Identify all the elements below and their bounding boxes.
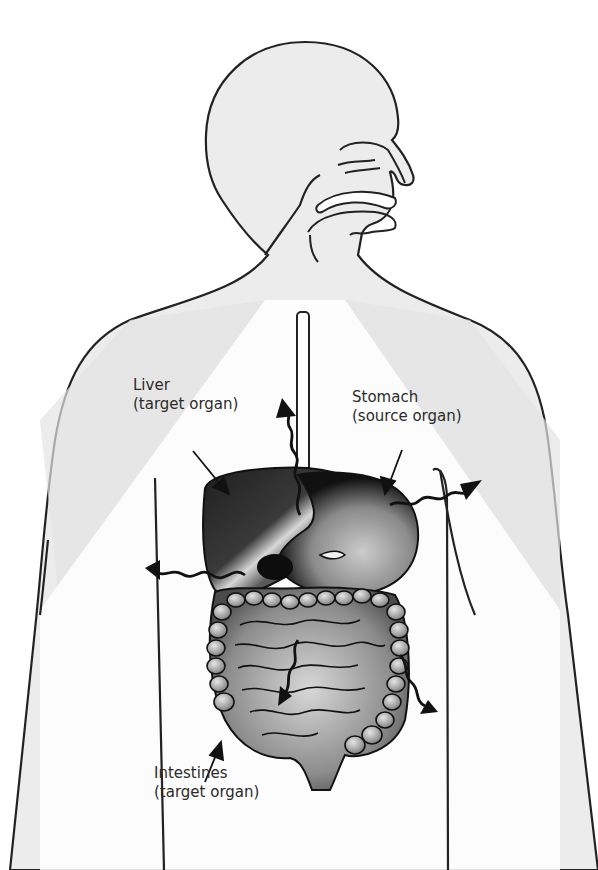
pancreas-dark <box>257 554 293 580</box>
anatomy-diagram <box>0 0 598 870</box>
intestines-label: Intestines (target organ) <box>154 764 259 802</box>
liver-label: Liver (target organ) <box>133 376 238 414</box>
esophagus <box>297 312 309 472</box>
liver-label-name: Liver <box>133 376 238 395</box>
intestines-label-role: (target organ) <box>154 783 259 802</box>
stomach-label: Stomach (source organ) <box>352 388 462 426</box>
stomach-label-name: Stomach <box>352 388 462 407</box>
liver-label-role: (target organ) <box>133 395 238 414</box>
stomach-label-role: (source organ) <box>352 407 462 426</box>
intestines-label-name: Intestines <box>154 764 259 783</box>
